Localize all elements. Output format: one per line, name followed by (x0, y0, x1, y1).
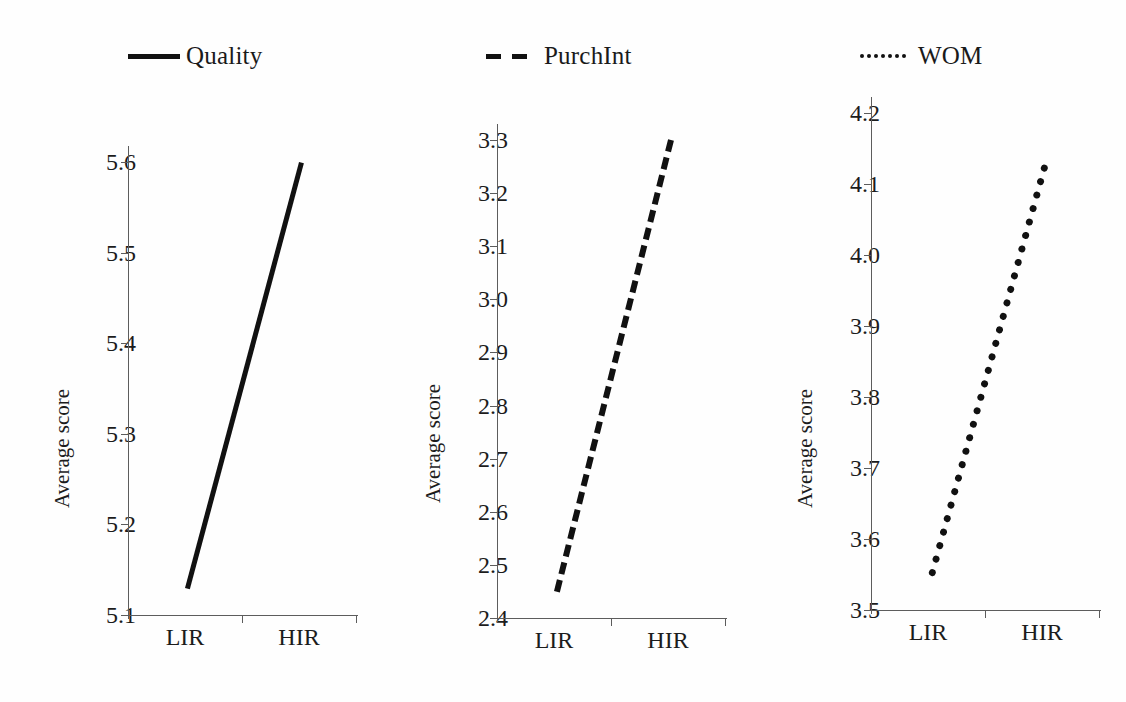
y-axis-tick (490, 299, 497, 300)
y-axis-tick (490, 140, 497, 141)
y-axis-tick (490, 459, 497, 460)
y-axis-tick-labels: 4.24.14.03.93.83.73.63.5 (802, 88, 880, 688)
y-axis-tick (121, 343, 128, 344)
y-axis-tick (121, 615, 128, 616)
x-axis-tick (611, 618, 612, 626)
y-axis-tick (864, 184, 871, 185)
y-axis-tick (864, 255, 871, 256)
y-axis-tick (121, 434, 128, 435)
plot-area: LIRHIR (871, 88, 1121, 688)
chart-panel-quality: Average score 5.65.55.45.35.25.1 LIRHIR (8, 88, 378, 688)
legend-label-purchint: PurchInt (544, 42, 632, 70)
legend-item-purchint: PurchInt (486, 42, 632, 70)
x-axis-tick (985, 610, 986, 618)
x-axis-tick (871, 606, 872, 614)
dashed-line-swatch-icon (486, 49, 538, 63)
series-line-quality (185, 162, 304, 589)
x-axis-category-label: LIR (893, 619, 963, 645)
x-axis-tick (242, 615, 243, 623)
legend-label-quality: Quality (186, 42, 262, 70)
x-axis-line (128, 615, 358, 616)
x-axis-category-label: HIR (633, 627, 703, 653)
y-axis-tick (864, 468, 871, 469)
y-axis-line (128, 146, 129, 615)
dotted-line-swatch-icon (860, 49, 912, 63)
y-axis-tick (490, 512, 497, 513)
y-axis-tick (490, 193, 497, 194)
y-axis-tick (490, 246, 497, 247)
y-axis-tick (121, 524, 128, 525)
series-line-wom (928, 163, 1049, 577)
figure-legend: Quality PurchInt WOM (0, 0, 1126, 100)
x-axis-tick (725, 618, 726, 626)
y-axis-tick (864, 397, 871, 398)
y-axis-tick (864, 610, 871, 611)
x-axis-tick (356, 615, 357, 623)
figure-canvas: Quality PurchInt WOM Average score (0, 0, 1126, 702)
x-axis-tick (128, 611, 129, 619)
y-axis-tick (121, 253, 128, 254)
y-axis-tick (864, 113, 871, 114)
y-axis-tick (490, 406, 497, 407)
plot-area: LIRHIR (128, 88, 373, 688)
x-axis-tick (497, 614, 498, 622)
plot-area: LIRHIR (497, 88, 742, 688)
chart-panel-wom: Average score 4.24.14.03.93.83.73.63.5 L… (746, 88, 1118, 688)
legend-item-quality: Quality (128, 42, 262, 70)
x-axis-category-label: HIR (264, 624, 334, 650)
y-axis-tick (864, 539, 871, 540)
y-axis-tick-labels: 5.65.55.45.35.25.1 (58, 88, 136, 688)
x-axis-category-label: LIR (150, 624, 220, 650)
chart-panel-purchint: Average score 3.33.23.13.02.92.82.72.62.… (378, 88, 746, 688)
x-axis-line (497, 618, 727, 619)
y-axis-tick (121, 162, 128, 163)
x-axis-category-label: HIR (1007, 619, 1077, 645)
series-line-purchint (554, 140, 674, 593)
y-axis-tick (490, 618, 497, 619)
x-axis-tick (1099, 610, 1100, 618)
x-axis-line (871, 610, 1101, 611)
y-axis-tick (490, 565, 497, 566)
x-axis-category-label: LIR (519, 627, 589, 653)
legend-item-wom: WOM (860, 42, 982, 70)
y-axis-line (871, 97, 872, 610)
y-axis-tick (864, 326, 871, 327)
solid-line-swatch-icon (128, 49, 180, 63)
legend-label-wom: WOM (918, 42, 982, 70)
y-axis-line (497, 124, 498, 618)
y-axis-tick (490, 352, 497, 353)
